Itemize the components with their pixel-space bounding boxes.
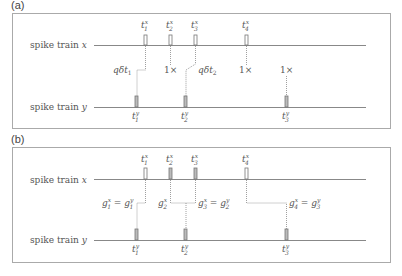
svg-text:ty3: ty3 bbox=[282, 109, 290, 123]
svg-text:tx4: tx4 bbox=[242, 18, 250, 32]
train-y-label-a: spike train y bbox=[30, 102, 88, 112]
spike-y3-a bbox=[285, 96, 288, 107]
panel-a: spike train x spike train y tx1 tx2 tx3 … bbox=[30, 18, 366, 123]
spike-x4-b bbox=[245, 168, 248, 179]
svg-text:qδt1: qδt1 bbox=[113, 65, 132, 76]
spike-y1-b bbox=[135, 229, 138, 240]
svg-text:1×: 1× bbox=[239, 65, 252, 75]
spike-x4-a bbox=[245, 35, 248, 45]
svg-text:tx4: tx4 bbox=[242, 152, 250, 166]
svg-text:ty3: ty3 bbox=[282, 242, 290, 256]
svg-text:gx4 = gy3: gx4 = gy3 bbox=[289, 196, 321, 210]
train-y-label-b: spike train y bbox=[30, 235, 88, 245]
svg-text:gx3 = gy2: gx3 = gy2 bbox=[198, 196, 230, 210]
svg-text:ty2: ty2 bbox=[181, 109, 189, 123]
spike-x1-a bbox=[144, 35, 147, 45]
svg-text:qδt2: qδt2 bbox=[198, 65, 217, 76]
spike-x3-a bbox=[194, 35, 197, 45]
svg-text:ty1: ty1 bbox=[132, 109, 140, 123]
svg-text:tx1: tx1 bbox=[141, 18, 149, 32]
spike-x2-b bbox=[169, 168, 172, 179]
svg-text:tx3: tx3 bbox=[191, 18, 199, 32]
svg-text:tx3: tx3 bbox=[191, 152, 199, 166]
spike-y2-a bbox=[184, 96, 187, 107]
svg-text:ty1: ty1 bbox=[132, 242, 140, 256]
spike-y1-a bbox=[135, 96, 138, 107]
svg-text:tx1: tx1 bbox=[141, 152, 149, 166]
spike-train-diagram: spike train x spike train y tx1 tx2 tx3 … bbox=[0, 0, 402, 276]
svg-text:gx2: gx2 bbox=[158, 196, 168, 210]
svg-text:tx2: tx2 bbox=[166, 18, 174, 32]
svg-text:1×: 1× bbox=[164, 65, 177, 75]
spike-x2-a bbox=[169, 35, 172, 45]
svg-text:ty2: ty2 bbox=[181, 242, 189, 256]
train-x-label-a: spike train x bbox=[30, 40, 87, 50]
spike-x3-b bbox=[194, 168, 197, 179]
spike-y3-b bbox=[285, 229, 288, 240]
svg-text:gx1 = gy1: gx1 = gy1 bbox=[102, 196, 134, 210]
train-x-label-b: spike train x bbox=[30, 175, 87, 185]
svg-text:1×: 1× bbox=[280, 65, 293, 75]
panel-b: spike train x spike train y tx1 tx2 tx3 … bbox=[30, 152, 366, 256]
spike-x1-b bbox=[144, 168, 147, 179]
svg-text:tx2: tx2 bbox=[166, 152, 174, 166]
spike-y2-b bbox=[184, 229, 187, 240]
